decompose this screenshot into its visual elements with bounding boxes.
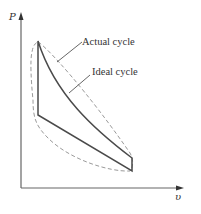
ideal-cycle-label: Ideal cycle (92, 66, 138, 77)
actual-cycle-label: Actual cycle (82, 36, 135, 47)
actual-cycle-leader (57, 42, 82, 62)
ideal-cycle-leader (69, 75, 90, 93)
y-axis-label: P (8, 11, 16, 22)
x-axis-arrow-icon (176, 186, 184, 191)
y-axis-arrow-icon (19, 12, 24, 20)
pv-diagram: P υ Actual cycle Ideal cycle (0, 0, 201, 214)
x-axis-label: υ (175, 191, 181, 202)
ideal-cycle-curve (38, 41, 132, 171)
